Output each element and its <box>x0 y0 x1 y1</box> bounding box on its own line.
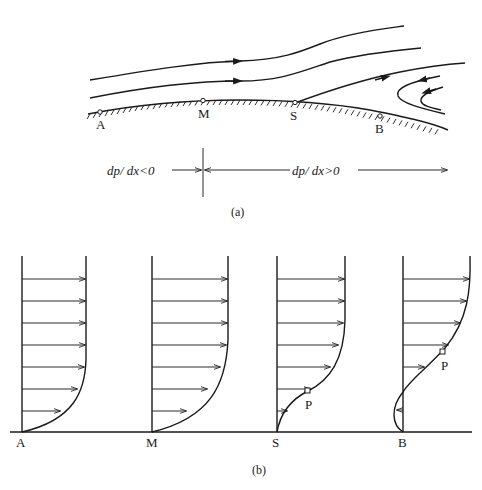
boundary-layer-separation-diagram: A M S B dp/ dx<0 dp/ dx>0 (a) <box>0 0 482 490</box>
recirculation-outer-arrow <box>422 78 430 80</box>
profile-m: M <box>146 256 228 450</box>
profile-b: P B <box>394 256 470 450</box>
wall-hatching <box>87 100 438 134</box>
label-a: A <box>96 117 106 132</box>
label-s: S <box>290 108 297 123</box>
caption-a: (a) <box>231 205 244 219</box>
caption-b: (b) <box>252 463 266 477</box>
streamline-1 <box>90 26 404 80</box>
profile-a-label: A <box>16 435 26 450</box>
inflection-point-b <box>440 349 445 354</box>
inflection-point-s <box>305 388 310 393</box>
profile-a: A <box>16 256 86 450</box>
favorable-gradient-label: dp/ dx<0 <box>107 163 155 178</box>
profile-m-label: M <box>146 435 158 450</box>
profile-s: P S <box>272 256 345 450</box>
separating-streamline <box>295 63 465 103</box>
recirculation-outer <box>398 76 445 114</box>
profile-b-label: B <box>398 435 407 450</box>
point-m-marker <box>201 98 205 102</box>
point-a-marker <box>98 110 102 114</box>
point-s-marker <box>293 100 297 104</box>
profile-s-label: S <box>272 435 279 450</box>
streamline-2 <box>90 48 421 98</box>
pressure-gradient-annotation: dp/ dx<0 dp/ dx>0 (a) <box>107 148 447 219</box>
inflection-label-b: P <box>441 358 448 373</box>
part-a-flow-field: A M S B <box>87 26 465 136</box>
adverse-gradient-label: dp/ dx>0 <box>292 163 340 178</box>
point-b-marker <box>378 114 382 118</box>
label-m: M <box>198 106 210 121</box>
inflection-label-s: P <box>305 397 312 412</box>
label-b: B <box>375 121 384 136</box>
part-b-velocity-profiles: A M <box>10 256 472 477</box>
